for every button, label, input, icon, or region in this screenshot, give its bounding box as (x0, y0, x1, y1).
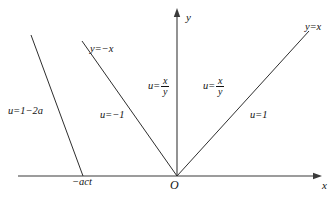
diagram-canvas (0, 0, 334, 199)
line-label-rhs: x (317, 21, 322, 32)
y-axis-label: y (186, 12, 191, 23)
y-equals-x-line (177, 31, 309, 176)
fraction-denominator: y (217, 87, 223, 97)
region-rhs: 1−2a (20, 105, 43, 116)
line-label-y-equals-x: y=x (305, 22, 321, 33)
line-label-operator: = (310, 21, 317, 32)
region-label-far-left: u=1−2a (8, 106, 43, 117)
line-label-lhs: y (90, 43, 95, 54)
origin-label: O (170, 179, 179, 191)
fraction-numerator: x (217, 76, 223, 86)
x-axis-label: x (322, 180, 327, 191)
fraction-x-over-y: x y (161, 76, 169, 97)
fraction-denominator: y (162, 87, 168, 97)
line-label-lhs: y (305, 21, 310, 32)
region-operator: = (153, 81, 160, 92)
y-equals-minus-x-line (82, 41, 177, 176)
region-operator: = (208, 81, 215, 92)
math-diagram: y x O −act y=−x y=x u=1−2a u=−1 u= x y u… (0, 0, 334, 199)
y-axis-arrowhead (174, 8, 180, 17)
region-label-left: u=−1 (100, 110, 125, 121)
region-label-upper-right-fraction: u= x y (203, 76, 224, 97)
x-tick-label-minus-act: −act (72, 177, 92, 188)
line-label-rhs: −x (102, 43, 114, 54)
fraction-x-over-y: x y (216, 76, 224, 97)
region-rhs: 1 (262, 109, 267, 120)
fraction-numerator: x (162, 76, 168, 86)
x-axis-arrowhead (313, 173, 322, 179)
region-label-upper-left-fraction: u= x y (148, 76, 169, 97)
line-label-operator: = (95, 43, 102, 54)
region-label-right: u=1 (250, 110, 267, 121)
region-rhs: −1 (112, 109, 124, 120)
line-label-y-equals-minus-x: y=−x (90, 44, 113, 55)
